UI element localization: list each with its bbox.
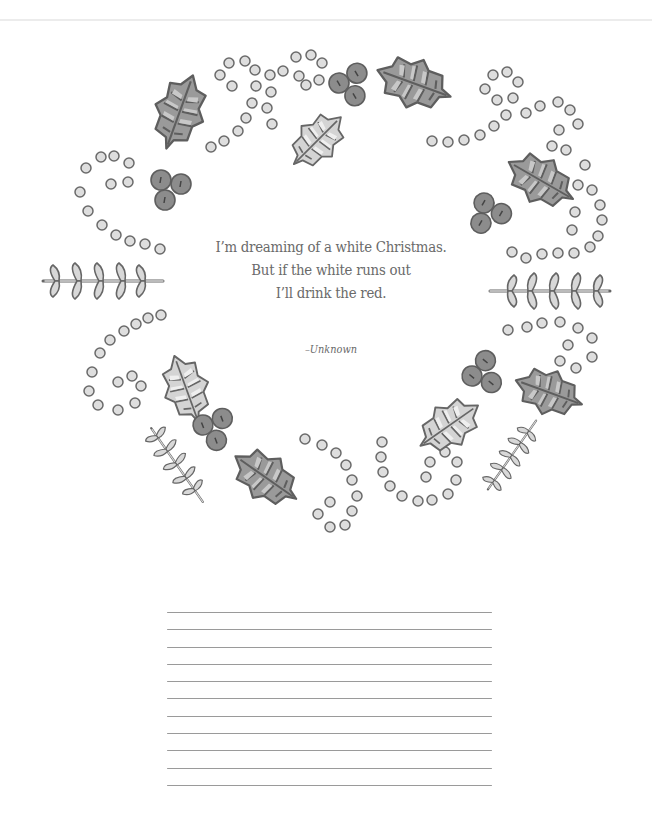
- writing-line: [167, 681, 492, 682]
- writing-line: [167, 733, 492, 734]
- holly-leaf-icon: [143, 67, 217, 157]
- writing-line: [167, 750, 492, 751]
- holly-berry-icon: [464, 190, 515, 241]
- holly-berry-icon: [151, 170, 191, 210]
- fern-sprig-icon: [490, 273, 610, 309]
- quote-attribution: –Unknown: [284, 342, 378, 356]
- writing-line: [167, 785, 492, 786]
- writing-lines: [167, 612, 492, 802]
- writing-line: [167, 647, 492, 648]
- writing-line: [167, 629, 492, 630]
- writing-line: [167, 612, 492, 613]
- quote-text: I’m dreaming of a white Christmas. But i…: [198, 236, 465, 305]
- quote-line-3: I’ll drink the red.: [198, 282, 465, 305]
- fern-sprig-icon: [478, 413, 547, 496]
- holly-berry-icon: [325, 56, 381, 112]
- writing-line: [167, 698, 492, 699]
- holly-leaf-icon: [222, 437, 310, 519]
- holly-leaf-icon: [279, 102, 357, 180]
- holly-berry-icon: [458, 345, 513, 400]
- quote-line-2: But if the white runs out: [198, 259, 465, 282]
- writing-line: [167, 768, 492, 769]
- fern-sprig-icon: [43, 263, 163, 299]
- quote-line-1: I’m dreaming of a white Christmas.: [198, 236, 465, 259]
- holly-leaf-icon: [369, 46, 459, 120]
- writing-line: [167, 664, 492, 665]
- writing-line: [167, 716, 492, 717]
